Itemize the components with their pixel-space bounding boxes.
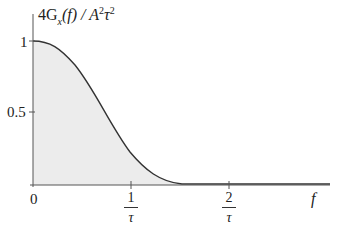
- x1-den: τ: [124, 208, 138, 225]
- ylabel-rest: (f) / A: [62, 6, 99, 23]
- chart-plot: [0, 0, 339, 231]
- y-tick-label-05: 0.5: [7, 105, 26, 120]
- x-tick-label-2: 2 τ: [222, 191, 236, 225]
- y-tick-label-1: 1: [20, 35, 28, 50]
- x1-num: 1: [124, 191, 138, 208]
- x-tick-label-0: 0: [30, 192, 38, 207]
- ylabel-sup2: 2: [110, 5, 115, 16]
- x2-den: τ: [222, 208, 236, 225]
- x-tick-label-1: 1 τ: [124, 191, 138, 225]
- area-fill: [33, 41, 182, 185]
- x2-num: 2: [222, 191, 236, 208]
- x-axis-label: f: [311, 191, 315, 207]
- ylabel-main: 4G: [38, 6, 58, 23]
- y-axis-label: 4Gx(f) / A2τ2: [38, 6, 115, 27]
